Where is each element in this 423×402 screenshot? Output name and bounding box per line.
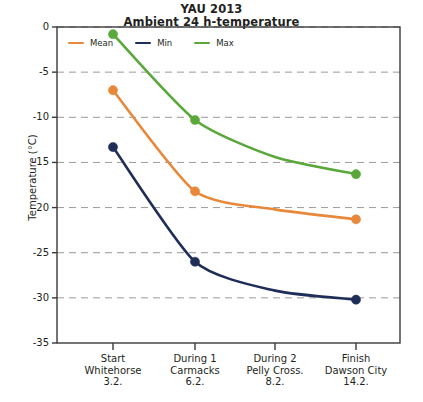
x-tick-label-3: FinishDawson City14.2. — [301, 353, 411, 388]
legend-swatch-min — [135, 42, 151, 45]
data-point-mean-0 — [108, 86, 117, 95]
x-tick-label-line: Dawson City — [301, 365, 411, 377]
y-tick-label: -25 — [15, 248, 49, 258]
chart-legend: MeanMinMax — [68, 38, 256, 48]
y-tick-label: -5 — [15, 67, 49, 77]
legend-label: Mean — [90, 38, 113, 48]
y-tick-label: -20 — [15, 203, 49, 213]
legend-item-min[interactable]: Min — [135, 38, 172, 48]
legend-swatch-max — [194, 42, 210, 45]
data-point-max-3 — [351, 170, 360, 179]
data-point-min-0 — [108, 142, 117, 151]
data-point-mean-1 — [190, 187, 199, 196]
legend-item-mean[interactable]: Mean — [68, 38, 113, 48]
y-tick-label: 0 — [15, 22, 49, 32]
data-point-min-1 — [190, 257, 199, 266]
data-point-min-3 — [351, 295, 360, 304]
series-line-min — [113, 147, 356, 300]
legend-swatch-mean — [68, 42, 84, 45]
plot-frame — [57, 27, 400, 343]
x-tick-label-line: Finish — [301, 353, 411, 365]
legend-item-max[interactable]: Max — [194, 38, 234, 48]
legend-label: Max — [216, 38, 234, 48]
legend-label: Min — [157, 38, 172, 48]
x-tick-label-line: 14.2. — [301, 376, 411, 388]
plot-area — [0, 0, 423, 402]
y-tick-label: -30 — [15, 293, 49, 303]
data-point-mean-3 — [351, 215, 360, 224]
chart-figure: YAU 2013 Ambient 24 h-temperature Temper… — [0, 0, 423, 402]
y-tick-label: -35 — [15, 338, 49, 348]
y-tick-label: -15 — [15, 157, 49, 167]
series-line-max — [113, 34, 356, 174]
y-tick-label: -10 — [15, 112, 49, 122]
data-point-max-1 — [190, 115, 199, 124]
